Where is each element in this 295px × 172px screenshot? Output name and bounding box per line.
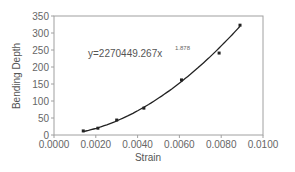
trendline-equation: y=2270449.267x [88, 48, 162, 59]
trendline-exponent: 1.878 [175, 45, 191, 51]
y-tick-label: 200 [32, 62, 49, 73]
y-tick-label: 100 [32, 96, 49, 107]
y-tick-label: 50 [38, 113, 50, 124]
x-tick-label: 0.0100 [248, 139, 279, 150]
x-axis-title: Strain [135, 152, 161, 163]
plot-area [54, 16, 263, 135]
y-tick-label: 150 [32, 79, 49, 90]
data-point [180, 78, 183, 81]
data-point [82, 129, 85, 132]
data-point [96, 127, 99, 130]
y-axis: 050100150200250300350 [32, 11, 54, 141]
x-tick-label: 0.0080 [206, 139, 237, 150]
y-tick-label: 350 [32, 11, 49, 22]
plot-border [54, 16, 263, 135]
data-point [218, 52, 221, 55]
y-tick-label: 300 [32, 28, 49, 39]
x-axis: 0.00000.00200.00400.00600.00800.0100 [39, 135, 279, 150]
x-tick-label: 0.0040 [122, 139, 153, 150]
data-point [239, 24, 242, 27]
data-point [115, 119, 118, 122]
y-tick-label: 250 [32, 45, 49, 56]
y-axis-title: Bending Depth [11, 43, 22, 109]
x-tick-label: 0.0060 [164, 139, 195, 150]
data-point [142, 107, 145, 110]
chart: 050100150200250300350 0.00000.00200.0040… [0, 0, 295, 172]
x-tick-label: 0.0020 [81, 139, 112, 150]
x-tick-label: 0.0000 [39, 139, 70, 150]
